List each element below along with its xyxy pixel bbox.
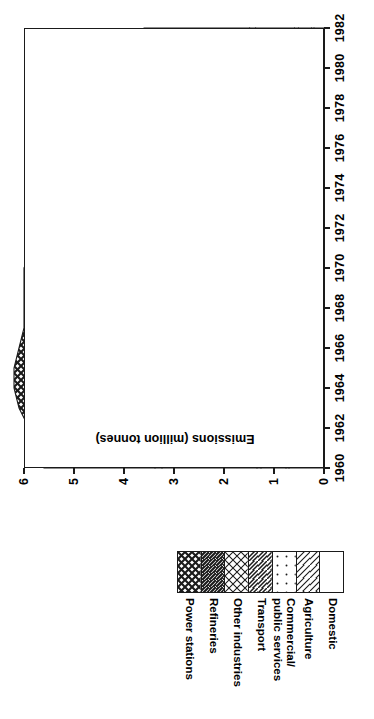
- legend-swatch-dots: [273, 552, 297, 592]
- x-tick-label: 1980: [333, 54, 347, 83]
- y-tick: [123, 468, 124, 474]
- x-tick-label: 1968: [333, 294, 347, 323]
- legend-item-label: Transport: [255, 598, 267, 651]
- legend-item: Other industries: [225, 596, 249, 716]
- x-tick-label: 1978: [333, 94, 347, 123]
- y-tick-label: 5: [67, 478, 81, 508]
- x-tick: [324, 387, 330, 388]
- legend-item: Transport: [249, 596, 273, 716]
- legend-item: Power stations: [177, 596, 201, 716]
- x-axis-line: [324, 28, 325, 468]
- x-tick-label: 1966: [333, 334, 347, 363]
- x-tick: [324, 227, 330, 228]
- x-tick: [324, 107, 330, 108]
- y-tick: [273, 468, 274, 474]
- x-tick: [324, 187, 330, 188]
- y-tick-label: 6: [17, 478, 31, 508]
- x-tick: [324, 307, 330, 308]
- x-tick-label: 1962: [333, 414, 347, 443]
- x-tick-label: 1970: [333, 254, 347, 283]
- rotated-chart-canvas: 1960196219641966196819701972197419761978…: [0, 0, 374, 520]
- legend-swatch-dense-crosshatch: [178, 552, 202, 592]
- y-tick: [173, 468, 174, 474]
- x-tick-label: 1972: [333, 214, 347, 243]
- x-tick-label: 1964: [333, 374, 347, 403]
- y-tick: [223, 468, 224, 474]
- x-tick: [324, 347, 330, 348]
- legend-swatch-sparse-diagonal: [297, 552, 321, 592]
- x-tick-label: 1974: [333, 174, 347, 203]
- x-tick-label: 1960: [333, 454, 347, 483]
- y-tick: [23, 468, 24, 474]
- x-tick: [324, 147, 330, 148]
- legend-item-label: Other industries: [231, 598, 243, 687]
- legend-item: Domestic: [320, 596, 344, 716]
- legend-swatch-medium-crosshatch: [225, 552, 249, 592]
- x-tick: [324, 467, 330, 468]
- legend-item: Commercial/public services: [272, 596, 296, 716]
- plot-frame: [24, 28, 324, 468]
- x-tick-label: 1976: [333, 134, 347, 163]
- legend-item: Agriculture: [296, 596, 320, 716]
- legend-item-label: Refineries: [207, 598, 219, 654]
- legend-item-label: Commercial/public services: [272, 598, 297, 681]
- legend-item: Refineries: [201, 596, 225, 716]
- y-axis-title: Emissions (million tonnes): [25, 432, 325, 446]
- y-tick-label: 2: [217, 478, 231, 508]
- y-tick-label: 3: [167, 478, 181, 508]
- x-tick-label: 1982: [333, 14, 347, 43]
- legend-swatch-blank: [320, 552, 343, 592]
- legend-swatch-medium-diagonal: [249, 552, 273, 592]
- legend-item-label: Agriculture: [302, 598, 314, 659]
- x-tick: [324, 427, 330, 428]
- x-tick: [324, 67, 330, 68]
- legend-item-label: Power stations: [183, 598, 195, 680]
- y-tick-label: 1: [267, 478, 281, 508]
- y-tick-label: 4: [117, 478, 131, 508]
- x-tick: [324, 27, 330, 28]
- legend: Power stationsRefineriesOther industries…: [0, 520, 374, 719]
- legend-label-row: Power stationsRefineriesOther industries…: [177, 596, 344, 716]
- y-tick-label: 0: [317, 478, 331, 508]
- legend-swatch-row: [177, 551, 344, 593]
- y-tick: [73, 468, 74, 474]
- chart-figure: 1960196219641966196819701972197419761978…: [0, 0, 374, 520]
- legend-swatch-dense-diagonal: [202, 552, 226, 592]
- legend-item-label: Domestic: [326, 598, 338, 650]
- y-tick: [323, 468, 324, 474]
- x-tick: [324, 267, 330, 268]
